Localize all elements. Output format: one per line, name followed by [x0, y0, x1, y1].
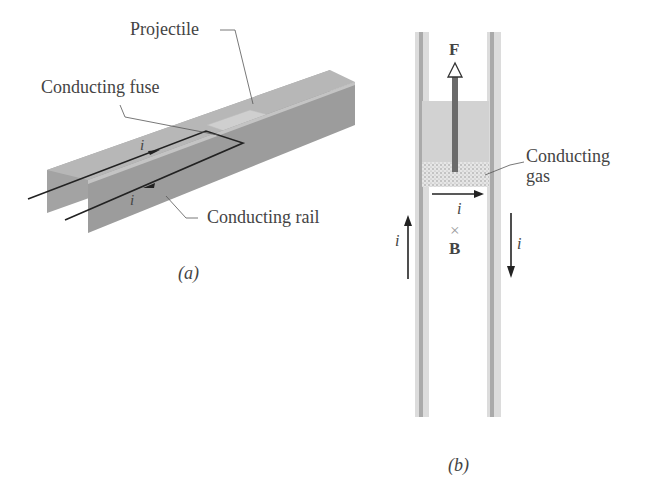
railgun-diagram — [0, 0, 658, 483]
current-down-arrow-icon — [507, 213, 515, 278]
leader-projectile — [220, 30, 253, 104]
label-current-left: i — [395, 233, 399, 249]
caption-a: (a) — [178, 264, 199, 282]
caption-b: (b) — [448, 456, 469, 474]
label-current-across: i — [457, 201, 461, 217]
label-current-bottom: i — [130, 193, 134, 208]
label-force: F — [449, 41, 459, 58]
label-conducting-gas-line2: gas — [526, 167, 550, 185]
label-conducting-gas-line1: Conducting — [526, 147, 610, 165]
label-conducting-fuse: Conducting fuse — [41, 78, 160, 96]
current-across-arrow-icon — [432, 190, 484, 198]
caption-a-text: (a) — [178, 263, 199, 283]
label-current-right: i — [517, 236, 521, 252]
label-current-top: i — [140, 138, 144, 153]
label-projectile: Projectile — [130, 20, 199, 38]
current-up-arrow-icon — [404, 215, 412, 279]
label-field-b: B — [449, 240, 460, 257]
label-conducting-rail: Conducting rail — [207, 208, 319, 226]
field-into-page-icon: × — [450, 222, 460, 239]
